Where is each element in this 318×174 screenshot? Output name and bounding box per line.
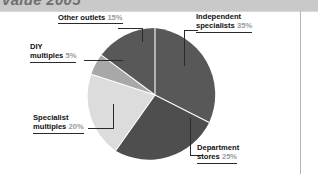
leader-diy-multiples bbox=[84, 60, 123, 61]
leader-other-outlets-horizontal bbox=[118, 28, 143, 29]
label-specialist-multiples-line1: Specialist bbox=[33, 113, 84, 122]
label-independent-specialists: Independent specialists 35% bbox=[196, 12, 252, 33]
right-margin-rule bbox=[300, 11, 301, 174]
header-band: value 2005 bbox=[0, 0, 318, 11]
leader-other-outlets-vertical bbox=[142, 28, 143, 42]
figure-title: value 2005 bbox=[2, 0, 81, 8]
label-department-stores-name: stores bbox=[197, 152, 220, 161]
label-specialist-multiples-pct: 20% bbox=[68, 122, 83, 131]
label-independent-specialists-line1: Independent bbox=[196, 12, 252, 21]
label-independent-specialists-pct: 35% bbox=[237, 21, 252, 30]
label-other-outlets-name: Other outlets bbox=[58, 13, 105, 22]
label-specialist-multiples-name: multiples bbox=[33, 122, 66, 131]
leader-department-stores-vertical bbox=[190, 118, 191, 156]
leader-specialist-multiples-horizontal bbox=[88, 128, 114, 129]
top-rule bbox=[0, 11, 318, 12]
label-independent-specialists-name: specialists bbox=[196, 21, 235, 30]
label-diy-multiples-line1: DIY bbox=[30, 42, 76, 51]
leader-specialist-multiples-vertical bbox=[113, 104, 114, 129]
label-other-outlets: Other outlets 15% bbox=[58, 13, 123, 24]
label-other-outlets-pct: 15% bbox=[107, 13, 122, 22]
label-specialist-multiples: Specialist multiples 20% bbox=[33, 113, 84, 134]
label-department-stores-pct: 25% bbox=[222, 152, 237, 161]
label-diy-multiples-name: multiples bbox=[30, 51, 63, 60]
label-department-stores: Department stores 25% bbox=[197, 143, 239, 164]
label-diy-multiples: DIY multiples 5% bbox=[30, 42, 76, 63]
leader-independent-specialists-vertical bbox=[184, 30, 185, 66]
pie-chart-figure: value 2005 bbox=[0, 0, 318, 174]
label-department-stores-line1: Department bbox=[197, 143, 239, 152]
label-diy-multiples-pct: 5% bbox=[65, 51, 76, 60]
